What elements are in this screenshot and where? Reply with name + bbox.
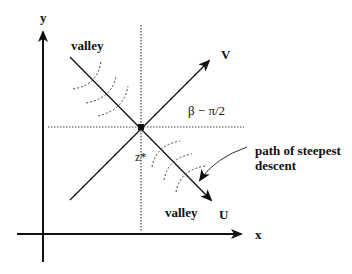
valley-label-lower: valley xyxy=(165,206,198,219)
annotation-line1: path of steepest xyxy=(255,144,341,157)
angle-label: β − π/2 xyxy=(188,104,225,117)
saddle-point-label: z* xyxy=(135,151,146,163)
annotation-line2: descent xyxy=(255,159,296,172)
steepest-descent-arrow xyxy=(200,147,247,180)
y-axis-label: y xyxy=(40,11,47,24)
x-axis-label: x xyxy=(255,228,262,241)
saddle-point-marker xyxy=(138,124,144,130)
valley-label-upper: valley xyxy=(71,39,104,52)
v-axis-label: V xyxy=(221,48,230,61)
diagram-canvas xyxy=(0,0,352,274)
v-axis xyxy=(70,61,209,200)
u-axis-label: U xyxy=(219,208,228,221)
